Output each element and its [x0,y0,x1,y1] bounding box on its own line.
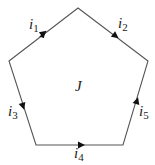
arrow-i3-icon [19,102,28,111]
diagram-svg: i1 i2 i3 i4 i5 J [0,0,155,165]
arrow-i4-icon [78,142,85,149]
region-label-J: J [75,78,83,94]
label-i2: i2 [118,15,128,33]
pentagon-current-diagram: i1 i2 i3 i4 i5 J [0,0,155,165]
label-i5: i5 [139,103,149,121]
label-i3: i3 [8,103,18,121]
label-i1: i1 [29,16,39,34]
